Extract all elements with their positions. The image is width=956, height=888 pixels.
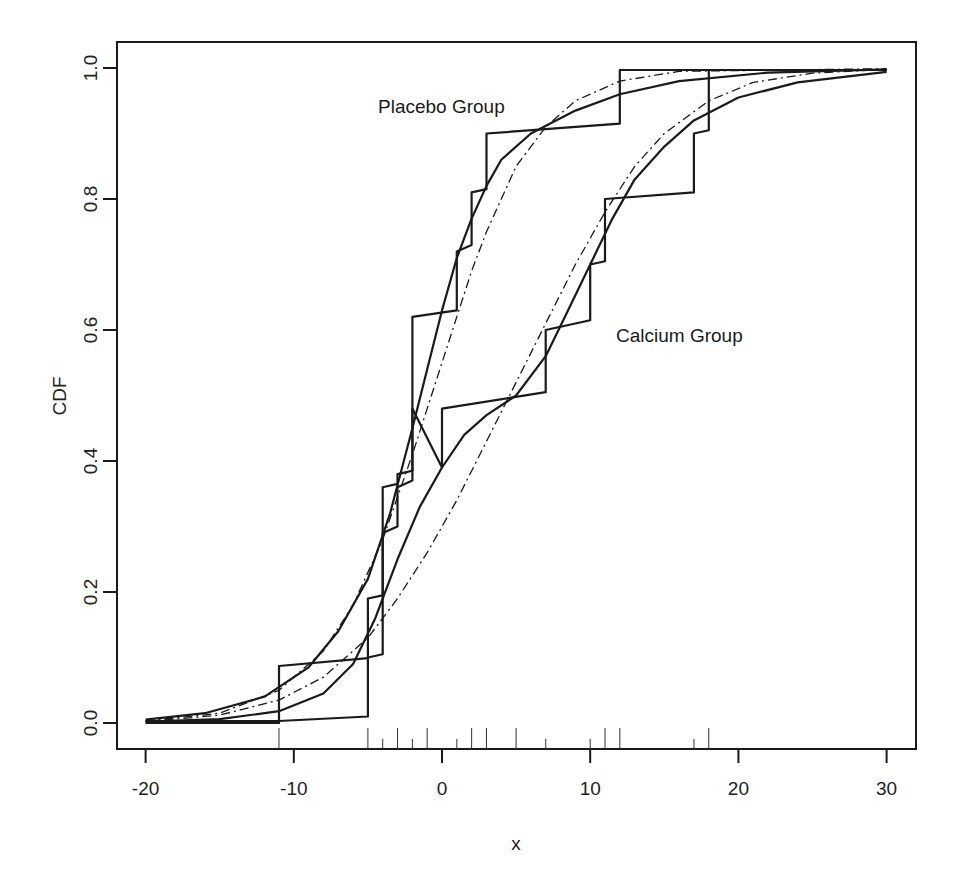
y-tick-label: 0.0 (80, 710, 101, 736)
x-tick-label: -20 (132, 778, 159, 799)
rug-marks (279, 728, 709, 749)
series-lines (146, 69, 887, 723)
y-tick-label: 0.4 (80, 447, 101, 474)
x-axis-label: x (511, 833, 521, 854)
annotation-placebo-group: Placebo Group (378, 96, 505, 117)
y-tick-label: 0.8 (80, 186, 101, 212)
x-axis: -20-100102030 (132, 749, 897, 799)
y-tick-label: 0.2 (80, 579, 101, 605)
x-tick-label: -10 (280, 778, 307, 799)
cdf-chart: -20-100102030 0.00.20.40.60.81.0 x CDF P… (0, 0, 956, 888)
annotation-calcium-group: Calcium Group (616, 325, 743, 346)
series-line-3 (146, 72, 887, 722)
x-tick-label: 20 (728, 778, 749, 799)
x-tick-label: 0 (437, 778, 448, 799)
y-tick-label: 0.6 (80, 317, 101, 343)
y-axis: 0.00.20.40.60.81.0 (80, 55, 117, 736)
x-tick-label: 10 (580, 778, 601, 799)
y-tick-label: 1.0 (80, 55, 101, 81)
x-tick-label: 30 (876, 778, 897, 799)
y-axis-label: CDF (49, 376, 70, 415)
